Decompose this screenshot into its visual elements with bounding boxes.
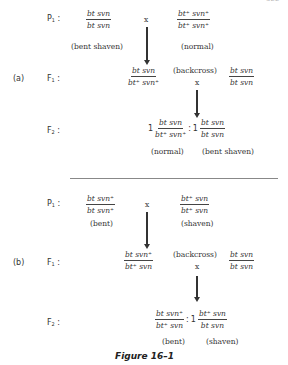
numerator: bt svn bbox=[229, 66, 254, 77]
ratio-colon: : bbox=[186, 315, 189, 324]
a-f1-cross-symbol: x bbox=[195, 78, 199, 87]
a-p1-left-genotype: bt svn bt svn bbox=[86, 9, 111, 30]
b-f2-right-phenotype: (shaven) bbox=[206, 337, 239, 346]
b-f1-cross-symbol: x bbox=[195, 262, 199, 271]
b-p1-left-genotype: bt svn⁺ bt svn⁺ bbox=[86, 194, 115, 215]
a-f2-label: F2 : bbox=[47, 126, 60, 135]
b-p1-down-arrow-icon bbox=[146, 212, 148, 245]
a-f1-genotype: bt svn bt⁺ svn⁺ bbox=[128, 66, 159, 87]
a-f2-ratio: 1 bt svn bt⁺ svn⁺ : 1 bt svn bt svn bbox=[148, 118, 225, 139]
b-f2-left-phenotype: (bent) bbox=[162, 337, 185, 346]
ratio-colon: : bbox=[188, 124, 191, 133]
a-f2-left-phenotype: (normal) bbox=[151, 147, 184, 156]
a-p1-left-phenotype: (bent shaven) bbox=[71, 42, 123, 51]
a-p1-down-arrow-icon bbox=[146, 27, 148, 61]
a-f1-tester-genotype: bt svn bt svn bbox=[229, 66, 254, 87]
a-p1-right-phenotype: (normal) bbox=[181, 42, 214, 51]
b-p1-left-phenotype: (bent) bbox=[90, 219, 113, 228]
b-p1-right-genotype: bt⁺ svn bt⁺ svn bbox=[180, 194, 209, 215]
denominator: bt svn bbox=[230, 77, 253, 87]
numerator: bt svn bbox=[131, 66, 156, 77]
a-f2-left-genotype: bt svn bt⁺ svn⁺ bbox=[155, 118, 186, 139]
numerator: bt svn⁺ bbox=[124, 250, 153, 261]
denominator: bt svn bbox=[87, 20, 110, 30]
numerator: bt svn bbox=[86, 9, 111, 20]
b-f2-left-genotype: bt svn⁺ bt⁺ svn bbox=[155, 309, 184, 330]
colon: : bbox=[55, 14, 60, 23]
b-section-label: (b) bbox=[13, 258, 24, 267]
denominator: bt svn⁺ bbox=[87, 205, 114, 215]
a-p1-cross-symbol: x bbox=[144, 15, 148, 24]
b-f1-down-arrow-icon bbox=[196, 276, 198, 298]
ratio-right: 1 bbox=[191, 315, 196, 324]
b-f1-tester-genotype: bt svn bt svn bbox=[229, 250, 254, 271]
b-f1-genotype: bt svn⁺ bt⁺ svn bbox=[124, 250, 153, 271]
denominator: bt⁺ svn bbox=[181, 205, 208, 215]
denominator: bt⁺ svn bbox=[125, 261, 152, 271]
page-number: 322 bbox=[266, 0, 279, 3]
numerator: bt svn bbox=[229, 250, 254, 261]
a-p1-label: P1 : bbox=[47, 14, 60, 23]
b-p1-label: P1 : bbox=[47, 199, 60, 208]
b-f1-label: F1 : bbox=[47, 258, 60, 267]
numerator: bt svn⁺ bbox=[86, 194, 115, 205]
denominator: bt⁺ svn⁺ bbox=[128, 77, 159, 87]
a-p1-right-genotype: bt⁺ svn⁺ bt⁺ svn⁺ bbox=[177, 9, 210, 30]
b-f2-ratio: bt svn⁺ bt⁺ svn : 1 bt⁺ svn bt svn bbox=[155, 309, 227, 330]
numerator: bt⁺ svn bbox=[180, 194, 209, 205]
a-f1-backcross-label: (backcross) bbox=[173, 66, 217, 75]
a-f2-right-genotype: bt svn bt svn bbox=[200, 118, 225, 139]
b-f1-backcross-label: (backcross) bbox=[173, 250, 217, 259]
b-f2-right-genotype: bt⁺ svn bt svn bbox=[198, 309, 227, 330]
b-p1-cross-symbol: x bbox=[145, 200, 149, 209]
denominator: bt⁺ svn⁺ bbox=[178, 20, 209, 30]
a-f1-down-arrow-icon bbox=[196, 90, 198, 114]
b-f2-label: F2 : bbox=[47, 318, 60, 327]
numerator: bt⁺ svn⁺ bbox=[177, 9, 210, 20]
b-p1-right-phenotype: (shaven) bbox=[181, 219, 214, 228]
denominator: bt svn bbox=[230, 261, 253, 271]
a-f1-label: F1 : bbox=[47, 74, 60, 83]
a-section-label: (a) bbox=[13, 74, 24, 83]
a-f2-right-phenotype: (bent shaven) bbox=[202, 147, 254, 156]
ratio-left: 1 bbox=[148, 124, 153, 133]
section-divider bbox=[70, 178, 278, 179]
ratio-right: 1 bbox=[193, 124, 198, 133]
figure-caption: Figure 16–1 bbox=[115, 351, 174, 361]
